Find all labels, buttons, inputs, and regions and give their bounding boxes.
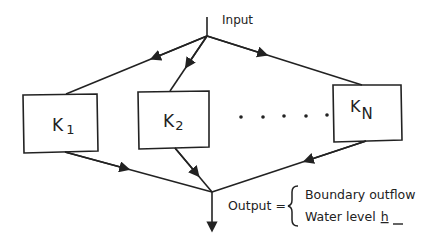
box-k2: K2 [138,91,209,149]
box-kn: KN [333,85,402,142]
input-branch-kn [207,36,362,85]
output-branch-k1 [65,152,212,192]
output-water-level: Water levelh [305,209,389,224]
output-branch-kn [212,141,366,192]
box-k1: K1 [23,94,98,153]
svg-text:K2: K2 [163,111,183,133]
parallel-model-diagram: Input K1 K2 KN [0,0,448,245]
input-branch-k1 [66,36,207,94]
output-branch-k2 [175,148,212,192]
ellipsis-dots [239,113,329,119]
svg-text:KN: KN [350,97,373,123]
svg-text:K1: K1 [52,115,74,137]
brace [288,186,298,226]
output-label: Output = [228,198,286,213]
output-boundary-outflow: Boundary outflow [305,187,415,202]
input-label: Input [222,13,253,27]
